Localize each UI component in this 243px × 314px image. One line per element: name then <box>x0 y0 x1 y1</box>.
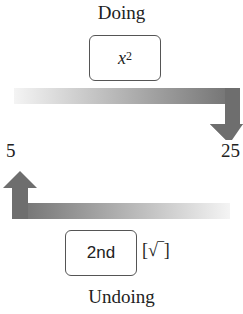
input-value: 5 <box>6 140 16 162</box>
undoing-arrow <box>3 171 230 219</box>
square-root-secondary-label: [√‾] <box>142 240 170 261</box>
output-value: 25 <box>221 140 240 162</box>
undoing-label: Undoing <box>0 286 243 308</box>
doing-arrow <box>14 88 243 140</box>
second-key: 2nd <box>65 230 137 276</box>
